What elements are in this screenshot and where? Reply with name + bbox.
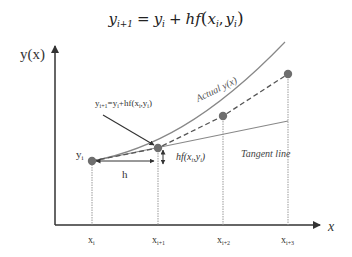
tangent-line-label: Tangent line [241,148,291,159]
annotation-formula: yi+1=yi+hf(xi,yi) [95,98,152,109]
actual-curve-label: Actual y(x) [193,74,239,105]
point-yi1 [154,144,162,152]
point-yi [88,157,96,165]
hf-label: hf(xi,yi) [176,151,206,163]
title-formula: yi+1=yi+hf(xi,yi) [107,8,243,29]
point-yi2 [219,112,227,120]
point-yi3 [284,70,292,78]
x-axis-label: x [327,219,335,234]
annotation-pointer [103,115,154,145]
euler-method-diagram: yi+1=yi+hf(xi,yi) y(x) x Actual y(x) Tan… [0,0,352,257]
yi-label: yi [76,148,84,162]
x-tick-xi3: xi+3 [281,234,294,246]
h-label: h [122,168,128,180]
x-tick-xi1: xi+1 [152,234,165,246]
y-axis-label: y(x) [20,46,45,63]
x-tick-xi2: xi+2 [217,234,230,246]
x-tick-xi: xi [88,234,95,246]
